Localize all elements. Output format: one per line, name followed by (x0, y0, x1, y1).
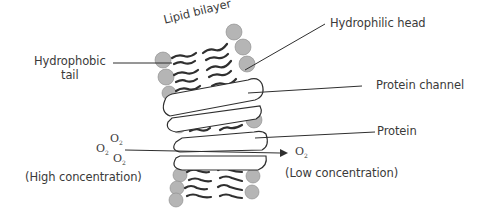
o2-molecule-top: O2 (110, 132, 123, 146)
protein-channel-label: Protein channel (376, 78, 464, 92)
hydrophobic-label-line1: Hydrophobic (34, 54, 106, 68)
hydrophilic-head-label: Hydrophilic head (330, 16, 426, 30)
protein-label: Protein (377, 124, 417, 138)
high-concentration-label: (High concentration) (25, 170, 142, 184)
o2-molecule-right: O2 (295, 145, 308, 159)
o2-molecule-left: O2 (96, 142, 109, 156)
hydrophobic-label-line2: tail (61, 68, 79, 82)
low-concentration-label: (Low concentration) (285, 166, 398, 180)
o2-molecule-bottom: O2 (113, 152, 126, 166)
